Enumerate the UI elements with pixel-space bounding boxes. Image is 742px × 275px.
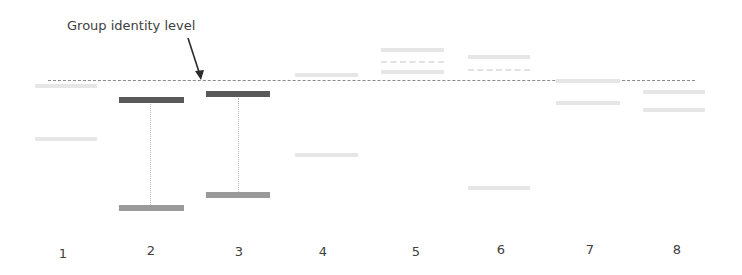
column-6-upper-bar — [468, 55, 530, 59]
column-label-6: 6 — [497, 242, 505, 257]
column-8-upper-bar — [643, 90, 705, 94]
column-7-lower-bar — [556, 101, 620, 105]
column-8-lower-bar — [643, 108, 705, 112]
column-label-1: 1 — [59, 246, 67, 261]
column-3-upper-bar — [206, 91, 270, 97]
column-label-2: 2 — [147, 243, 155, 258]
column-label-8: 8 — [673, 242, 681, 257]
column-2-lower-bar — [119, 205, 184, 211]
column-5-dashed-bar — [381, 61, 444, 63]
column-3-lower-bar — [206, 192, 270, 198]
column-label-4: 4 — [319, 244, 327, 259]
column-6-dashed-bar — [468, 69, 530, 71]
column-4-lower-bar — [295, 153, 358, 157]
column-5-lower-bar — [381, 70, 444, 74]
column-label-5: 5 — [412, 244, 420, 259]
column-2-upper-bar — [119, 97, 184, 103]
column-5-upper-bar — [381, 48, 444, 52]
column-4-upper-bar — [295, 73, 358, 77]
column-1-upper-bar — [35, 84, 97, 88]
column-1-lower-bar — [35, 137, 97, 141]
arrow-icon — [0, 0, 742, 275]
column-label-7: 7 — [586, 242, 594, 257]
column-2-connector — [150, 104, 151, 205]
column-3-connector — [238, 98, 239, 192]
column-6-lower-bar — [468, 186, 530, 190]
column-label-3: 3 — [235, 244, 243, 259]
column-7-upper-bar — [556, 79, 620, 83]
